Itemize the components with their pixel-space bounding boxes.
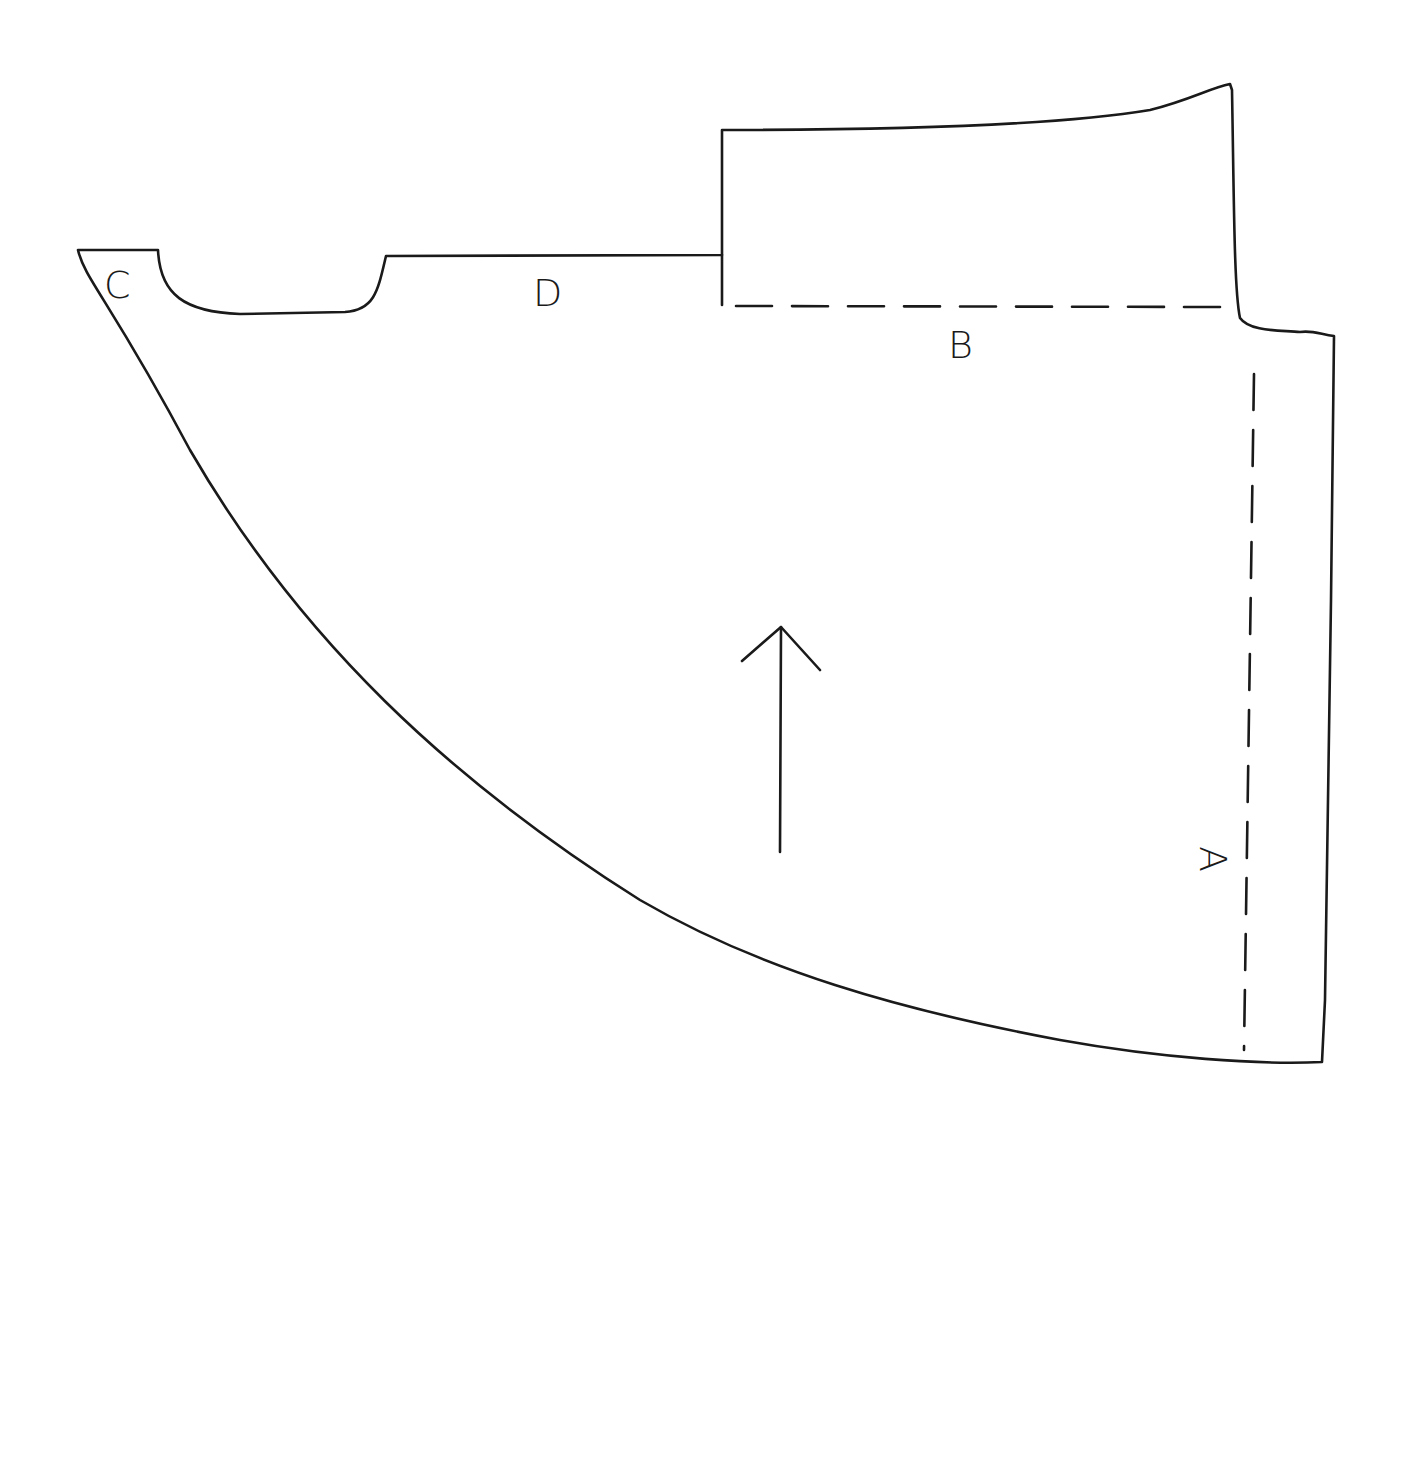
label-d: D xyxy=(533,271,562,315)
label-b: B xyxy=(948,323,973,367)
fold-line-b xyxy=(736,306,1220,307)
grainline-arrow-icon xyxy=(742,627,820,852)
label-a: A xyxy=(1191,846,1235,872)
pattern-diagram: C D B A xyxy=(0,0,1406,1476)
label-c: C xyxy=(104,263,131,307)
fold-line-a xyxy=(1244,374,1254,1050)
pattern-outline xyxy=(78,84,1334,1063)
